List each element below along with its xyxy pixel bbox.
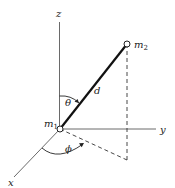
theta-label: θ <box>65 97 71 108</box>
mass-2-label: m2 <box>134 39 148 52</box>
z-axis-label: z <box>55 8 62 19</box>
phi-label: ϕ <box>65 143 72 154</box>
x-axis-label: x <box>8 177 14 188</box>
spherical-coordinates-diagram: z y x m1 m2 d θ ϕ <box>0 0 175 188</box>
mass-2-marker <box>124 41 130 47</box>
mass-1-label: m1 <box>44 118 58 131</box>
phi-arc <box>42 144 83 154</box>
y-axis-label: y <box>159 124 166 135</box>
separation-label: d <box>94 85 100 96</box>
x-axis <box>14 129 60 177</box>
